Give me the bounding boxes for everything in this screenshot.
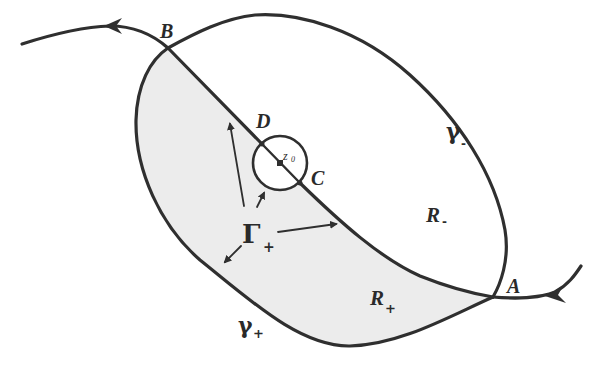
label-region-r-plus-subscript: + <box>385 301 396 316</box>
label-region-r-plus: R <box>369 286 384 310</box>
label-region-r-minus: R <box>425 203 440 227</box>
label-gamma-plus-subscript: + <box>253 326 264 341</box>
label-gamma-minus: γ <box>446 118 461 144</box>
label-point-d: D <box>255 110 270 132</box>
label-gamma-plus: γ <box>238 312 253 338</box>
label-point-b: B <box>159 20 173 42</box>
point-c-marker <box>298 181 303 186</box>
label-point-c: C <box>311 167 325 189</box>
label-point-a: A <box>505 275 520 297</box>
label-z0: z <box>282 149 288 163</box>
contour-diagram: B D C A z 0 γ - γ + Γ + R - R + <box>0 0 595 373</box>
tail-left-from-b <box>22 26 168 48</box>
label-capital-gamma-plus: Γ <box>242 219 261 249</box>
label-region-r-minus-subscript: - <box>442 215 447 229</box>
label-z0-subscript: 0 <box>291 155 295 164</box>
label-gamma-minus-subscript: - <box>461 137 466 151</box>
point-d-marker <box>260 142 265 147</box>
label-capital-gamma-plus-subscript: + <box>263 239 275 255</box>
